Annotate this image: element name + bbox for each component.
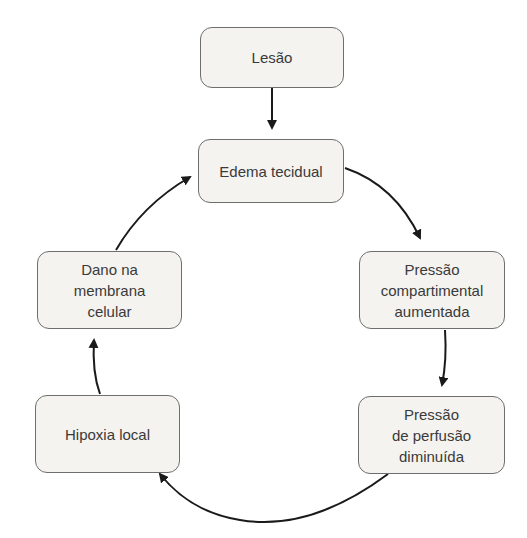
node-lesao-label: Lesão (252, 47, 293, 68)
arrow-edema-to-pressao-compartimental (345, 168, 420, 238)
node-perfusao-line-1: Pressão (404, 404, 459, 425)
arrow-perfusao-to-hipoxia (160, 474, 388, 522)
arrow-compartimental-to-perfusao (442, 330, 446, 385)
node-compartimental-line-3: aumentada (394, 301, 469, 322)
node-lesao: Lesão (200, 27, 344, 88)
node-perfusao-line-3: diminuída (399, 446, 464, 467)
node-pressao-compartimental: Pressão compartimental aumentada (359, 251, 505, 329)
arrow-hipoxia-to-dano (94, 340, 100, 394)
node-compartimental-line-1: Pressão (404, 259, 459, 280)
node-compartimental-line-2: compartimental (381, 280, 484, 301)
node-dano-line-2: membrana (74, 280, 146, 301)
node-dano-line-3: celular (87, 301, 131, 322)
node-edema-label: Edema tecidual (219, 161, 322, 182)
node-dano-membrana: Dano na membrana celular (37, 251, 182, 329)
node-edema-tecidual: Edema tecidual (198, 139, 344, 203)
node-perfusao-line-2: de perfusão (392, 425, 471, 446)
node-pressao-perfusao: Pressão de perfusão diminuída (358, 396, 505, 474)
node-dano-line-1: Dano na (81, 259, 138, 280)
arrow-dano-to-edema (116, 177, 190, 250)
node-hipoxia-label: Hipoxia local (65, 424, 150, 445)
node-hipoxia-local: Hipoxia local (35, 395, 180, 473)
